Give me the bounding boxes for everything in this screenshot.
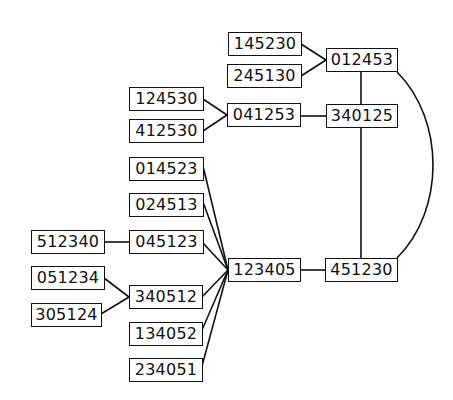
edge-412530-041253: [203, 115, 227, 131]
node-134052: 134052: [129, 322, 203, 346]
node-124530: 124530: [129, 87, 204, 111]
edge-014523-123405: [203, 166, 228, 270]
node-145230: 145230: [228, 32, 302, 56]
node-451230: 451230: [325, 258, 398, 282]
edge-305124-340512: [101, 297, 129, 314]
node-412530: 412530: [129, 119, 204, 143]
node-041253: 041253: [227, 103, 301, 127]
edge-024513-123405: [203, 202, 228, 270]
node-045123: 045123: [129, 230, 204, 254]
node-340512: 340512: [129, 285, 203, 309]
node-340125: 340125: [326, 104, 398, 128]
node-245130: 245130: [227, 64, 302, 88]
node-512340: 512340: [31, 230, 105, 254]
edge-051234-340512: [104, 278, 129, 297]
node-051234: 051234: [31, 266, 105, 290]
node-012453: 012453: [326, 48, 398, 72]
edge-124530-041253: [203, 99, 227, 115]
node-014523: 014523: [129, 157, 204, 181]
node-234051: 234051: [129, 358, 203, 382]
node-024513: 024513: [129, 193, 204, 217]
edge-145230-012453: [301, 44, 326, 60]
node-305124: 305124: [31, 303, 102, 327]
edge-012453-451230-arc: [397, 72, 433, 258]
edge-245130-012453: [301, 60, 326, 76]
node-123405: 123405: [228, 258, 301, 282]
permutation-graph-diagram: 145230 245130 012453 124530 412530 04125…: [0, 0, 453, 400]
